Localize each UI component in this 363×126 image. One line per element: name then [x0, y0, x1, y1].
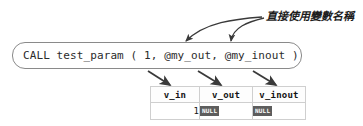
cell-v-out: NULL — [200, 103, 253, 120]
null-badge: NULL — [200, 106, 219, 116]
curved-arrow-to-my-inout — [231, 18, 264, 41]
table-row: 1 NULL NULL — [151, 103, 306, 120]
cell-v-inout: NULL — [253, 103, 306, 120]
column-header-v-inout: v_inout — [253, 87, 306, 103]
arrow-to-v-inout-column — [253, 71, 276, 85]
arrow-to-v-in-column — [148, 71, 170, 85]
statement-box: CALL test_param ( 1, @my_out, @my_inout … — [12, 42, 302, 69]
table-header-row: v_in v_out v_inout — [151, 87, 306, 103]
result-grid: v_in v_out v_inout 1 NULL NULL — [150, 86, 306, 120]
curved-arrow-to-my-out — [186, 17, 262, 41]
arrow-to-v-out-column — [198, 71, 221, 85]
diagram-canvas: 直接使用變數名稱 CALL test_param ( 1, @my_out, @… — [0, 0, 363, 126]
column-header-v-out: v_out — [200, 87, 253, 103]
column-header-v-in: v_in — [151, 87, 200, 103]
cell-v-in: 1 — [151, 103, 200, 120]
call-statement-text: CALL test_param ( 1, @my_out, @my_inout … — [23, 43, 299, 68]
null-badge: NULL — [253, 106, 272, 116]
annotation-label: 直接使用變數名稱 — [266, 7, 362, 26]
